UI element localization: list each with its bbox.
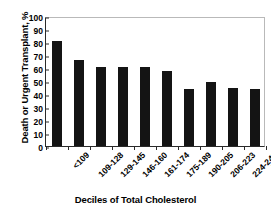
bar-slot (222, 18, 244, 146)
y-tick-label: 60 (34, 66, 43, 75)
y-tick-label: 40 (34, 92, 43, 101)
y-axis-title: Death or Urgent Transplant, % (19, 3, 30, 153)
y-tick-label: 70 (34, 53, 43, 62)
y-tick-label: 100 (29, 14, 43, 23)
x-tick-mark (266, 146, 267, 150)
y-tick-label: 90 (34, 27, 43, 36)
bar-slot (156, 18, 178, 146)
bar-slot (134, 18, 156, 146)
bar-slot (178, 18, 200, 146)
bar-slot (68, 18, 90, 146)
y-tick-label: 50 (34, 79, 43, 88)
x-tick-label: <109 (71, 150, 92, 171)
bar[interactable] (74, 60, 84, 146)
y-tick-label: 0 (38, 144, 43, 153)
bar[interactable] (140, 67, 150, 146)
x-axis-title: Deciles of Total Cholesterol (0, 194, 271, 205)
y-tick-label: 20 (34, 118, 43, 127)
bar[interactable] (184, 89, 194, 146)
bar[interactable] (228, 88, 238, 147)
y-tick-label: 30 (34, 105, 43, 114)
bar-slot (200, 18, 222, 146)
bar-slot (112, 18, 134, 146)
bar-slot (244, 18, 266, 146)
bar[interactable] (162, 71, 172, 146)
bar[interactable] (118, 67, 128, 146)
plot-area: 0102030405060708090100 (45, 17, 265, 147)
bar-slot (46, 18, 68, 146)
bar[interactable] (206, 82, 216, 146)
x-axis-tick-labels: <109109-128129-145146-160161-174175-1891… (45, 150, 265, 192)
bar-chart-figure: Death or Urgent Transplant, % 0102030405… (0, 0, 271, 212)
y-tick-label: 10 (34, 131, 43, 140)
y-tick-label: 80 (34, 40, 43, 49)
bar[interactable] (250, 89, 260, 146)
bars-group (46, 18, 264, 146)
bar-slot (90, 18, 112, 146)
bar[interactable] (96, 67, 106, 146)
bar[interactable] (52, 41, 62, 146)
